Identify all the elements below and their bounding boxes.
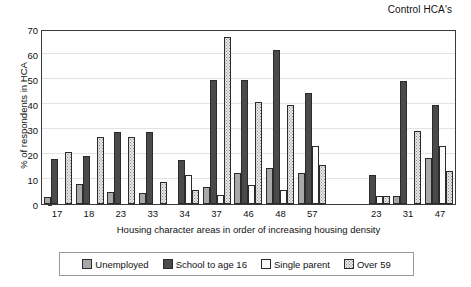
bar-group-34 bbox=[169, 31, 201, 204]
bar-unemployed-23 bbox=[107, 192, 114, 204]
y-tick-label: 50 bbox=[14, 75, 38, 86]
x-tick-label-57: 57 bbox=[296, 208, 328, 219]
y-tick-label: 60 bbox=[14, 50, 38, 61]
chart-legend: UnemployedSchool to age 16Single parentO… bbox=[59, 252, 414, 276]
bar-group-31 bbox=[391, 31, 423, 204]
bar-unemployed-46 bbox=[234, 173, 241, 204]
legend-label: Unemployed bbox=[95, 259, 148, 270]
x-tick-label-37: 37 bbox=[201, 208, 233, 219]
bar-group-48 bbox=[264, 31, 296, 204]
bar-over-59-48 bbox=[287, 105, 294, 204]
bar-school-to-age-16-17 bbox=[51, 159, 58, 204]
bar-group-37 bbox=[201, 31, 233, 204]
bar-over-59-31 bbox=[414, 131, 421, 205]
bar-school-to-age-16-57 bbox=[305, 93, 312, 204]
legend-swatch-icon bbox=[82, 259, 92, 269]
y-tick-label: 30 bbox=[14, 125, 38, 136]
y-tick-label: 40 bbox=[14, 100, 38, 111]
legend-label: School to age 16 bbox=[176, 259, 247, 270]
bar-single-parent-23 bbox=[376, 196, 383, 204]
x-tick-label-17: 17 bbox=[41, 208, 73, 219]
y-tick-label: 20 bbox=[14, 150, 38, 161]
legend-item-single-parent[interactable]: Single parent bbox=[261, 259, 330, 270]
bar-over-59-33 bbox=[160, 182, 167, 204]
bar-school-to-age-16-46 bbox=[241, 80, 248, 204]
bar-over-59-17 bbox=[65, 152, 72, 205]
x-tick-label-34: 34 bbox=[169, 208, 201, 219]
bar-over-59-34 bbox=[192, 190, 199, 205]
legend-item-unemployed[interactable]: Unemployed bbox=[82, 259, 148, 270]
x-axis-title: Housing character areas in order of incr… bbox=[41, 224, 456, 235]
bar-chart: Control HCA's % of respondents in HCA 01… bbox=[0, 0, 471, 287]
bar-unemployed-33 bbox=[139, 193, 146, 205]
bar-over-59-23 bbox=[128, 137, 135, 204]
bar-group-23 bbox=[360, 31, 392, 204]
plot-area bbox=[41, 30, 456, 205]
bar-group-18 bbox=[74, 31, 106, 204]
bars-layer bbox=[42, 31, 455, 204]
bar-group-23 bbox=[106, 31, 138, 204]
bar-unemployed-31 bbox=[393, 196, 400, 205]
bar-school-to-age-16-23 bbox=[369, 175, 376, 204]
x-tick-label-empty bbox=[328, 208, 360, 219]
x-axis-tick-labels: 171823333437464857233147 bbox=[41, 208, 456, 219]
y-tick-label: 10 bbox=[14, 175, 38, 186]
y-axis-tick-labels: 010203040506070 bbox=[10, 30, 38, 205]
bar-unemployed-47 bbox=[425, 158, 432, 204]
y-tick-mark bbox=[48, 205, 52, 206]
bar-group-57 bbox=[296, 31, 328, 204]
bar-single-parent-46 bbox=[248, 185, 255, 204]
bar-school-to-age-16-47 bbox=[432, 105, 439, 204]
bar-unemployed-57 bbox=[298, 173, 305, 204]
bar-group-46 bbox=[233, 31, 265, 204]
bar-unemployed-48 bbox=[266, 168, 273, 204]
bar-school-to-age-16-31 bbox=[400, 81, 407, 204]
x-tick-label-33: 33 bbox=[137, 208, 169, 219]
bar-school-to-age-16-37 bbox=[210, 80, 217, 204]
legend-label: Single parent bbox=[274, 259, 330, 270]
legend-swatch-icon bbox=[261, 259, 271, 269]
legend-swatch-icon bbox=[163, 259, 173, 269]
x-tick-label-47: 47 bbox=[424, 208, 456, 219]
bar-over-59-18 bbox=[97, 137, 104, 204]
bar-single-parent-57 bbox=[312, 146, 319, 205]
bar-group-33 bbox=[137, 31, 169, 204]
x-tick-label-31: 31 bbox=[392, 208, 424, 219]
bar-unemployed-18 bbox=[76, 184, 83, 204]
bar-unemployed-17 bbox=[44, 197, 51, 205]
bar-group-spacer bbox=[328, 31, 360, 204]
y-tick-label: 70 bbox=[14, 25, 38, 36]
bar-over-59-57 bbox=[319, 165, 326, 204]
bar-school-to-age-16-18 bbox=[83, 156, 90, 204]
bar-single-parent-47 bbox=[439, 146, 446, 204]
bar-over-59-47 bbox=[446, 171, 453, 204]
x-tick-label-23: 23 bbox=[360, 208, 392, 219]
legend-label: Over 59 bbox=[357, 259, 391, 270]
bar-school-to-age-16-48 bbox=[273, 50, 280, 204]
y-tick-label: 0 bbox=[14, 200, 38, 211]
chart-title: Control HCA's bbox=[0, 4, 452, 15]
x-tick-label-23: 23 bbox=[105, 208, 137, 219]
legend-swatch-icon bbox=[344, 259, 354, 269]
bar-school-to-age-16-23 bbox=[114, 132, 121, 204]
bar-group-17 bbox=[42, 31, 74, 204]
legend-item-over-59[interactable]: Over 59 bbox=[344, 259, 391, 270]
bar-school-to-age-16-34 bbox=[178, 160, 185, 205]
bar-over-59-46 bbox=[255, 102, 262, 204]
x-tick-label-18: 18 bbox=[73, 208, 105, 219]
x-tick-label-48: 48 bbox=[264, 208, 296, 219]
bar-unemployed-37 bbox=[203, 187, 210, 204]
bar-group-47 bbox=[423, 31, 455, 204]
bar-school-to-age-16-33 bbox=[146, 132, 153, 204]
legend-item-school-to-age-16[interactable]: School to age 16 bbox=[163, 259, 247, 270]
bar-over-59-23 bbox=[383, 196, 390, 205]
bar-single-parent-34 bbox=[185, 175, 192, 205]
bar-single-parent-48 bbox=[280, 190, 287, 204]
x-tick-label-46: 46 bbox=[233, 208, 265, 219]
bar-over-59-37 bbox=[224, 37, 231, 204]
bar-single-parent-37 bbox=[217, 195, 224, 204]
